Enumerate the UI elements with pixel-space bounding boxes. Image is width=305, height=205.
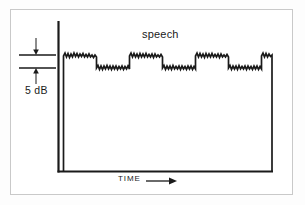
series-label: speech xyxy=(142,28,179,40)
scale-up-arrow-icon xyxy=(33,68,39,84)
scale-down-arrow-icon xyxy=(33,38,39,55)
speech-waveform xyxy=(64,53,273,172)
time-arrow-icon xyxy=(146,177,177,184)
x-axis-label: TIME xyxy=(118,174,141,183)
scale-label: 5 dB xyxy=(25,84,48,96)
figure-root: speech 5 dB TIME xyxy=(0,0,305,205)
